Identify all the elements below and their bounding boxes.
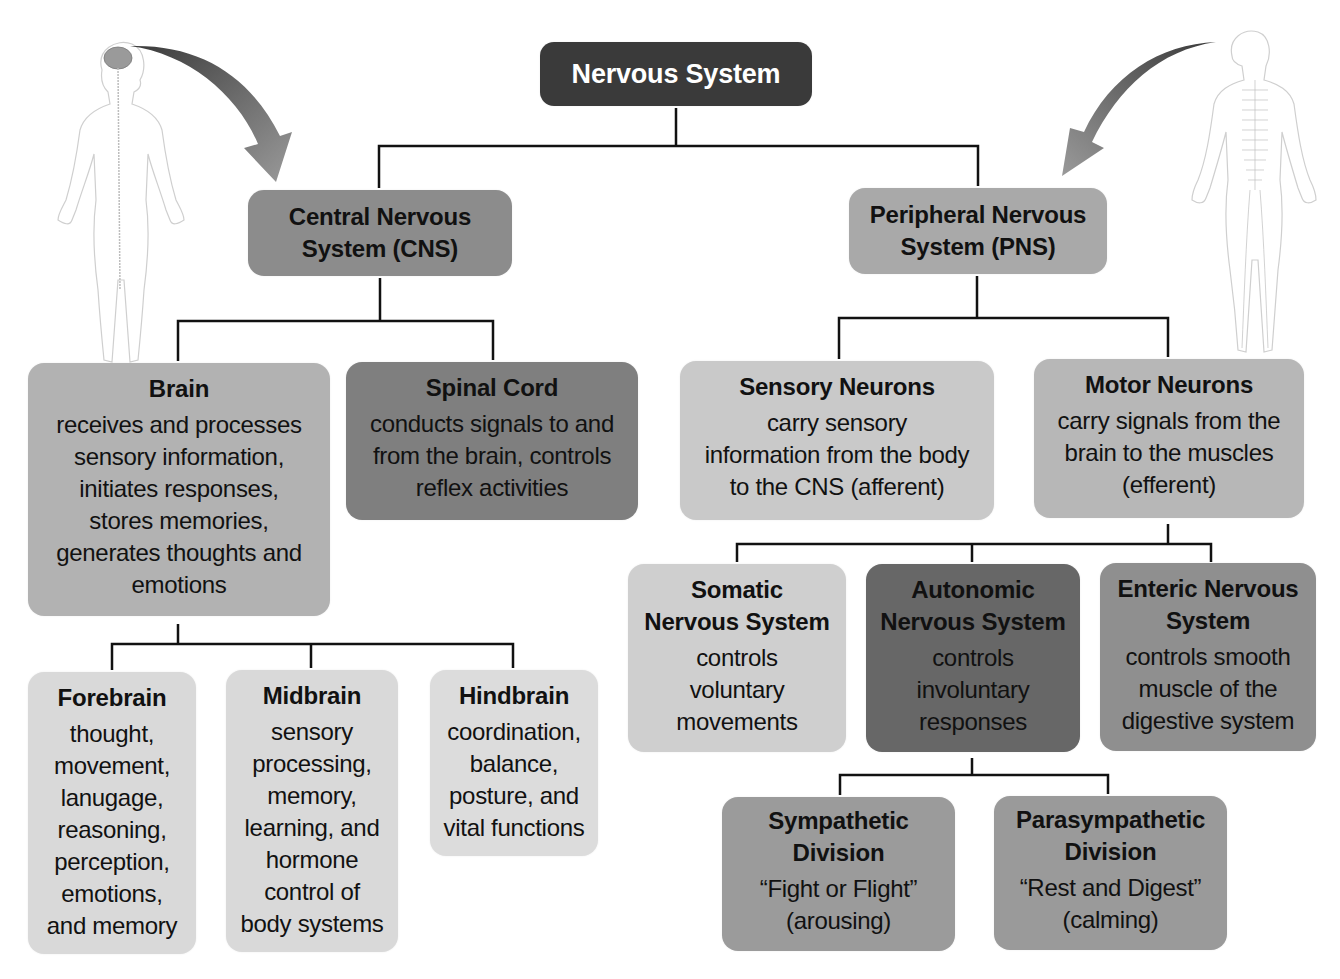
somatic-desc: controls voluntary movements [676,642,797,738]
somatic-title: Somatic Nervous System [644,574,829,638]
hindbrain-desc: coordination, balance, posture, and vita… [444,716,585,844]
brain-title: Brain [149,373,209,405]
pns-node: Peripheral Nervous System (PNS) [849,188,1107,274]
autonomic-nervous-system-node: Autonomic Nervous System controls involu… [866,564,1080,752]
parasympathetic-division-node: Parasympathetic Division “Rest and Diges… [994,796,1227,950]
hindbrain-title: Hindbrain [459,680,569,712]
forebrain-title: Forebrain [58,682,167,714]
forebrain-node: Forebrain thought, movement, lanugage, r… [28,672,196,954]
sympathetic-division-node: Sympathetic Division “Fight or Flight” (… [722,797,955,951]
hindbrain-node: Hindbrain coordination, balance, posture… [430,670,598,856]
sensory-neurons-desc: carry sensory information from the body … [705,407,970,503]
forebrain-desc: thought, movement, lanugage, reasoning, … [47,718,177,942]
midbrain-desc: sensory processing, memory, learning, an… [240,716,383,940]
parasympathetic-title: Parasympathetic Division [1016,804,1205,868]
enteric-title: Enteric Nervous System [1117,573,1298,637]
cns-title: Central Nervous System (CNS) [289,201,471,265]
spinal-cord-title: Spinal Cord [426,372,558,404]
enteric-nervous-system-node: Enteric Nervous System controls smooth m… [1100,563,1316,751]
nervous-system-node: Nervous System [540,42,812,106]
parasympathetic-desc: “Rest and Digest” (calming) [1020,872,1202,936]
midbrain-title: Midbrain [263,680,361,712]
sympathetic-title: Sympathetic Division [768,805,909,869]
pns-title: Peripheral Nervous System (PNS) [870,199,1087,263]
autonomic-desc: controls involuntary responses [917,642,1030,738]
sensory-neurons-title: Sensory Neurons [739,371,935,403]
spinal-cord-node: Spinal Cord conducts signals to and from… [346,362,638,520]
somatic-nervous-system-node: Somatic Nervous System controls voluntar… [628,564,846,752]
midbrain-node: Midbrain sensory processing, memory, lea… [226,670,398,952]
motor-neurons-node: Motor Neurons carry signals from the bra… [1034,359,1304,518]
nervous-system-title: Nervous System [572,58,781,90]
sensory-neurons-node: Sensory Neurons carry sensory informatio… [680,361,994,520]
motor-neurons-title: Motor Neurons [1085,369,1253,401]
sympathetic-desc: “Fight or Flight” (arousing) [760,873,918,937]
brain-node: Brain receives and processes sensory inf… [28,363,330,616]
spinal-cord-desc: conducts signals to and from the brain, … [370,408,614,504]
motor-neurons-desc: carry signals from the brain to the musc… [1058,405,1281,501]
cns-node: Central Nervous System (CNS) [248,190,512,276]
enteric-desc: controls smooth muscle of the digestive … [1122,641,1295,737]
autonomic-title: Autonomic Nervous System [880,574,1065,638]
brain-desc: receives and processes sensory informati… [56,409,302,601]
